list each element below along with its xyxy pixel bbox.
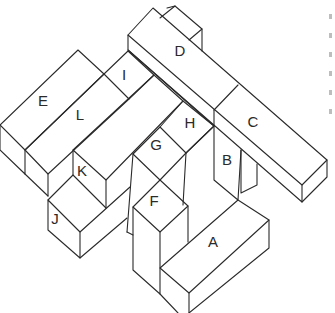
label-a: A	[208, 233, 218, 250]
clipped-fragment	[329, 14, 332, 19]
clipped-fragment	[329, 109, 332, 114]
label-k: K	[77, 162, 87, 179]
clipped-fragment	[329, 71, 332, 76]
label-c: C	[248, 113, 259, 130]
block-j	[48, 187, 130, 258]
block-e	[0, 50, 104, 196]
clipped-fragment	[329, 52, 332, 57]
label-g: G	[150, 136, 162, 153]
block-i	[104, 51, 154, 99]
block-c	[214, 85, 238, 110]
label-e: E	[38, 92, 48, 109]
label-b: B	[222, 151, 232, 168]
label-l: L	[76, 106, 84, 123]
block-d	[128, 6, 327, 202]
block-k	[48, 150, 106, 208]
clipped-text-fragments	[329, 14, 335, 128]
label-i: I	[122, 66, 126, 83]
clipped-fragment	[329, 90, 332, 95]
label-h: H	[185, 114, 196, 131]
clipped-fragment	[329, 33, 332, 38]
block-diagram: A B C D E F G H I J K L	[0, 0, 335, 313]
block-f	[133, 180, 188, 294]
label-f: F	[149, 192, 158, 209]
label-j: J	[51, 210, 59, 227]
label-d: D	[175, 42, 186, 59]
